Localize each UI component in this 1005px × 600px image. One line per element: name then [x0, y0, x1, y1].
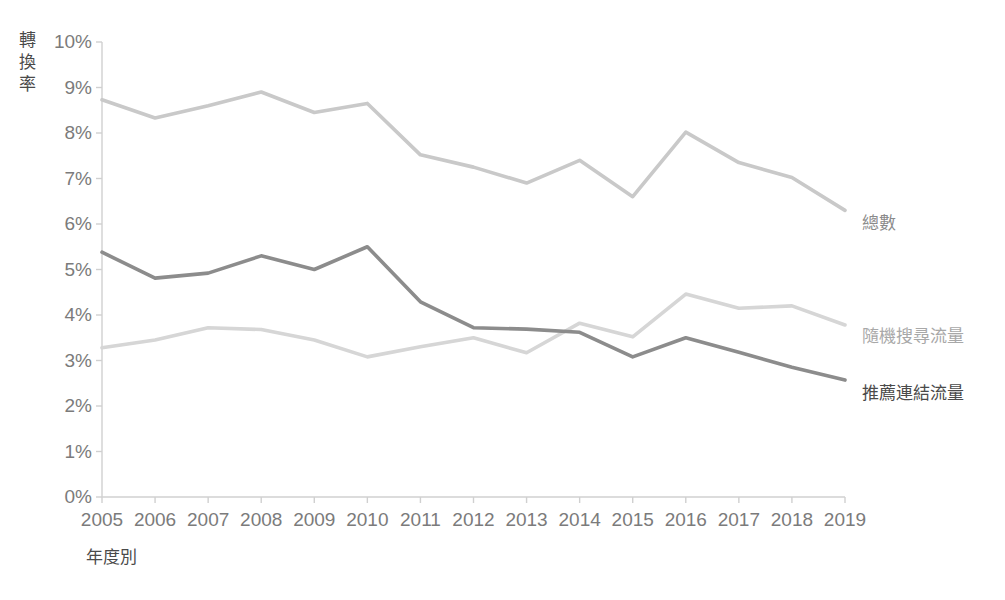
x-tick-label: 2013 — [505, 509, 547, 531]
x-tick-label: 2015 — [612, 509, 654, 531]
series-label: 總數 — [862, 209, 896, 234]
x-tick-label: 2014 — [559, 509, 601, 531]
x-axis-tick-labels: 2005200620072008200920102011201220132014… — [0, 0, 1005, 600]
x-tick-label: 2011 — [400, 509, 441, 531]
series-label: 推薦連結流量 — [862, 379, 964, 404]
x-tick-label: 2006 — [134, 509, 176, 531]
x-axis-title: 年度別 — [86, 543, 137, 568]
x-tick-label: 2019 — [824, 509, 866, 531]
line-chart: 轉 換 率 0%1%2%3%4%5%6%7%8%9%10% 2005200620… — [0, 0, 1005, 600]
x-tick-label: 2012 — [452, 509, 494, 531]
x-tick-label: 2017 — [718, 509, 760, 531]
x-tick-label: 2018 — [771, 509, 813, 531]
x-tick-label: 2010 — [346, 509, 388, 531]
x-tick-label: 2007 — [187, 509, 229, 531]
x-tick-label: 2008 — [240, 509, 282, 531]
x-tick-label: 2016 — [665, 509, 707, 531]
x-tick-label: 2005 — [81, 509, 123, 531]
x-tick-label: 2009 — [293, 509, 335, 531]
series-label: 隨機搜尋流量 — [862, 322, 964, 347]
